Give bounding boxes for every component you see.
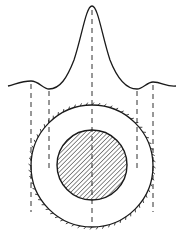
diffraction-diagram bbox=[0, 0, 182, 240]
inner-hatched-disk bbox=[57, 130, 127, 200]
